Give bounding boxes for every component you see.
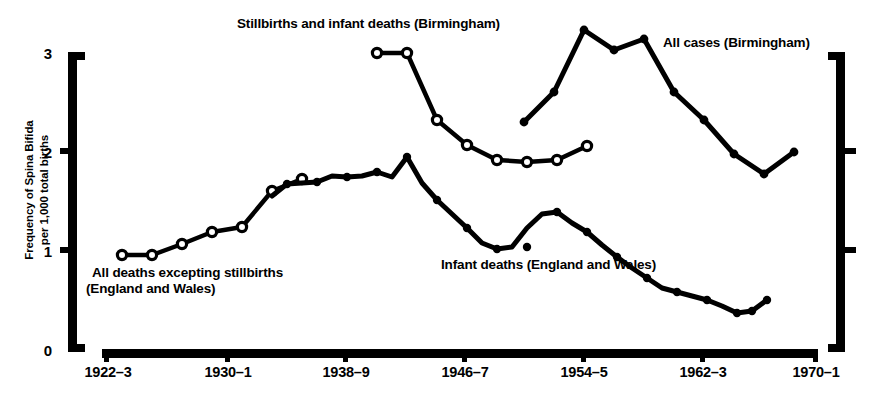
data-point	[643, 274, 651, 282]
data-point	[373, 168, 381, 176]
data-point	[748, 307, 756, 315]
data-point	[372, 48, 381, 57]
data-point	[552, 155, 561, 164]
x-axis-tick-1946-7	[462, 355, 467, 362]
data-point	[522, 157, 531, 166]
data-point	[670, 88, 679, 97]
data-point	[177, 239, 186, 248]
series-birmingham-stillbirths-infant-deaths	[377, 53, 587, 162]
data-point	[790, 148, 799, 157]
data-point	[553, 208, 561, 216]
data-point	[343, 173, 351, 181]
x-axis-tick-1922-3	[104, 355, 109, 362]
y-axis-right-tick-1	[845, 247, 856, 253]
series-birmingham-all-cases	[524, 30, 794, 174]
data-point	[673, 288, 681, 296]
data-point	[760, 170, 769, 179]
x-axis-tick-1938-9	[343, 355, 348, 362]
x-axis-tick-1962-3	[700, 355, 705, 362]
data-point	[283, 180, 291, 188]
data-point	[117, 250, 126, 259]
data-point	[492, 155, 501, 164]
data-point	[313, 178, 321, 186]
data-point	[523, 243, 531, 251]
data-point	[520, 118, 529, 127]
data-point	[610, 46, 619, 55]
data-point	[147, 250, 156, 259]
chart-plot-area	[0, 0, 870, 400]
y-axis-right-tick-2	[845, 148, 856, 154]
data-point	[463, 224, 471, 232]
data-point	[733, 309, 741, 317]
data-point	[700, 116, 709, 125]
x-axis-tick-1954-5	[581, 355, 586, 362]
x-axis-tick-1930-1	[225, 355, 230, 362]
data-point	[703, 296, 711, 304]
series-birmingham-stillbirths-markers	[372, 48, 591, 166]
data-point	[493, 245, 501, 253]
x-axis	[102, 349, 818, 362]
data-point	[403, 153, 411, 161]
y-axis-right	[828, 52, 856, 352]
x-axis-tick-1970-1	[813, 355, 818, 362]
data-point	[433, 196, 441, 204]
data-point	[550, 88, 559, 97]
data-point	[207, 227, 216, 236]
data-point	[462, 140, 471, 149]
data-point	[432, 115, 441, 124]
data-point	[580, 26, 589, 35]
data-point	[237, 222, 246, 231]
data-point	[583, 228, 591, 236]
data-point	[640, 35, 649, 44]
data-point	[730, 150, 739, 159]
data-point	[402, 48, 411, 57]
chart-figure: Frequency of Spina Bifida per 1,000 tota…	[0, 0, 870, 400]
data-point	[763, 296, 771, 304]
y-axis-left	[60, 52, 85, 352]
y-axis-tick-2	[60, 148, 69, 154]
y-axis-tick-1	[60, 247, 69, 253]
data-point	[613, 253, 621, 261]
data-point	[582, 141, 591, 150]
